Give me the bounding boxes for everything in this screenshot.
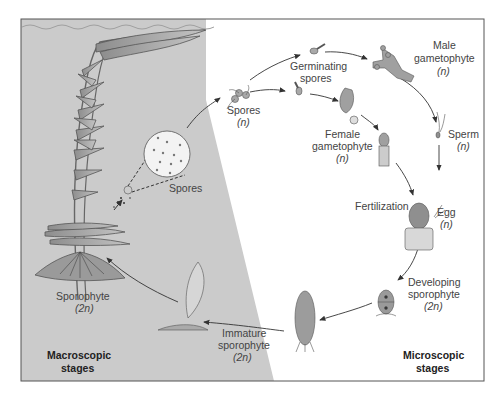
- kelp-life-cycle-diagram: Spores: [0, 0, 501, 393]
- svg-text:Egg: Egg: [437, 206, 456, 218]
- svg-text:Immature: Immature: [222, 327, 267, 339]
- svg-text:(n): (n): [437, 65, 450, 77]
- svg-text:Macroscopic: Macroscopic: [47, 349, 111, 361]
- svg-text:Female: Female: [325, 128, 360, 140]
- svg-text:Developing: Developing: [408, 276, 461, 288]
- svg-text:Sporophyte: Sporophyte: [56, 290, 110, 302]
- svg-text:Sperm: Sperm: [448, 128, 479, 140]
- svg-text:spores: spores: [300, 72, 332, 84]
- svg-text:stages: stages: [416, 362, 449, 374]
- svg-text:Spores: Spores: [227, 104, 260, 116]
- svg-text:sporophyte: sporophyte: [408, 288, 460, 300]
- svg-text:Microscopic: Microscopic: [403, 349, 464, 361]
- svg-text:(n): (n): [237, 116, 250, 128]
- svg-text:(2n): (2n): [233, 351, 252, 363]
- svg-text:(n): (n): [440, 218, 453, 230]
- svg-text:(n): (n): [336, 152, 349, 164]
- oogonium-illustration: [379, 133, 389, 166]
- svg-text:gametophyte: gametophyte: [312, 140, 373, 152]
- spores-inset-circle: [144, 131, 190, 177]
- svg-text:stages: stages: [61, 362, 94, 374]
- svg-text:(n): (n): [457, 140, 470, 152]
- label-fertilization: Fertilization: [355, 200, 409, 212]
- spores-inset-label: Spores: [169, 182, 202, 194]
- svg-text:sporophyte: sporophyte: [218, 339, 270, 351]
- svg-text:(2n): (2n): [75, 302, 94, 314]
- svg-text:gametophyte: gametophyte: [414, 52, 475, 64]
- svg-text:Male: Male: [433, 39, 456, 51]
- svg-text:Germinating: Germinating: [290, 60, 347, 72]
- svg-text:(2n): (2n): [424, 300, 443, 312]
